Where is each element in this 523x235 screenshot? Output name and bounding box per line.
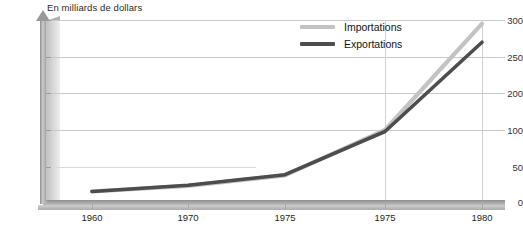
gridline-250 [46, 57, 505, 58]
x-axis-base-front [38, 205, 505, 210]
y-axis-label-300: 300 [489, 15, 523, 26]
x-tick-mark [92, 202, 93, 209]
x-axis-label-1970: 1970 [177, 212, 198, 223]
legend-item-exportations: Exportations [300, 38, 402, 50]
y-tick-mark [46, 57, 51, 58]
gridline-200 [46, 93, 505, 94]
legend-swatch-importations [300, 25, 335, 29]
gridline-50 [46, 167, 256, 168]
y-axis-shaft [40, 18, 46, 204]
legend-label-exportations: Exportations [344, 38, 402, 50]
x-tick-mark [188, 202, 189, 209]
legend-item-importations: Importations [300, 21, 402, 33]
y-axis-label-250: 250 [489, 52, 523, 63]
y-tick-mark [46, 93, 51, 94]
gridline-100 [46, 130, 505, 131]
x-axis-label-1975b: 1975 [374, 212, 395, 223]
chart-axis-title: En milliards de dollars [47, 2, 142, 13]
vertical-gridline-1980 [482, 20, 483, 202]
x-tick-mark [285, 202, 286, 209]
y-axis-label-100: 100 [489, 125, 523, 136]
y-tick-mark [46, 20, 51, 21]
y-tick-mark [46, 130, 51, 131]
chart-container: En milliards de dollars 300 250 200 100 … [0, 0, 523, 235]
plot-area [46, 20, 505, 202]
x-axis-label-1980: 1980 [471, 212, 492, 223]
legend-label-importations: Importations [344, 21, 402, 33]
y-axis-label-200: 200 [489, 88, 523, 99]
y-tick-mark [46, 167, 51, 168]
x-axis-label-1960: 1960 [81, 212, 102, 223]
chart-legend: Importations Exportations [300, 21, 402, 50]
x-tick-mark [482, 202, 483, 209]
gridline-300 [46, 20, 505, 21]
y-axis-label-50: 50 [489, 162, 523, 173]
x-tick-mark [385, 202, 386, 209]
x-axis-label-1975a: 1975 [274, 212, 295, 223]
legend-swatch-exportations [300, 42, 335, 46]
